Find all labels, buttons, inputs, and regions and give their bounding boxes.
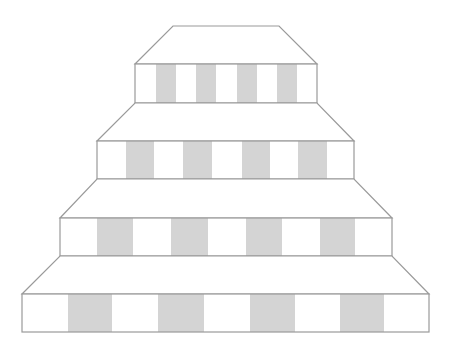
tier-2-stripe bbox=[242, 141, 270, 179]
tier-2-stripe bbox=[298, 141, 327, 179]
tier-2-stripe bbox=[126, 141, 154, 179]
tier-1-stripe bbox=[237, 64, 257, 103]
tier-3-stripe bbox=[171, 218, 208, 256]
tier-3-stripe bbox=[246, 218, 282, 256]
tier-4 bbox=[22, 256, 429, 332]
tier-4-stripe bbox=[250, 294, 295, 332]
tier-3-stripe bbox=[97, 218, 133, 256]
tier-1-stripe bbox=[196, 64, 216, 103]
tier-1-stripe bbox=[277, 64, 297, 103]
tier-1 bbox=[135, 26, 317, 103]
tier-1-top-face bbox=[135, 26, 317, 64]
tier-4-stripe bbox=[68, 294, 112, 332]
tier-3 bbox=[60, 179, 392, 256]
tier-3-stripe bbox=[320, 218, 355, 256]
tier-2-stripe bbox=[183, 141, 212, 179]
tier-1-stripe bbox=[156, 64, 176, 103]
tier-4-top-face bbox=[22, 256, 429, 294]
tier-3-top-face bbox=[60, 179, 392, 218]
stepped-pyramid-diagram bbox=[0, 0, 453, 347]
tier-2 bbox=[97, 103, 354, 179]
tier-4-stripe bbox=[158, 294, 204, 332]
tier-4-stripe bbox=[340, 294, 384, 332]
tier-2-top-face bbox=[97, 103, 354, 141]
